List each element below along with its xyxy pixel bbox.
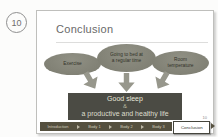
nav-item-body-2: Body 2 xyxy=(113,122,140,131)
title-divider xyxy=(56,42,208,43)
slide-title: Conclusion xyxy=(56,23,113,35)
conclusion-box: Good sleep & a productive and healthy li… xyxy=(68,93,182,120)
nav-item-conclusion-active: Conclusion xyxy=(173,121,210,134)
nav-item-body-1: Body 1 xyxy=(81,122,108,131)
page: 10 Conclusion Exercise Going to bed at a… xyxy=(0,0,218,137)
slide-number: 10 xyxy=(197,115,207,120)
bubble-regular-bedtime: Going to bed at a regular time xyxy=(97,44,156,72)
chevron-right-icon xyxy=(211,123,215,129)
item-number-badge: 10 xyxy=(6,12,27,33)
conclusion-line-3: a productive and healthy life xyxy=(81,110,168,118)
bubble-room-temperature-label: Room temperature xyxy=(163,58,197,69)
nav-item-body-3: Body 3 xyxy=(145,122,172,131)
conclusion-line-2: & xyxy=(123,103,127,110)
item-number: 10 xyxy=(11,18,21,28)
conclusion-line-1: Good sleep xyxy=(107,95,143,103)
down-arrow-icon xyxy=(118,73,135,92)
bubble-exercise-label: Exercise xyxy=(55,61,89,66)
nav-item-introduction: Introduction xyxy=(40,122,76,131)
slide-thumbnail[interactable]: Conclusion Exercise Going to bed at a re… xyxy=(36,10,214,134)
bubble-regular-bedtime-label: Going to bed at a regular time xyxy=(109,53,144,64)
